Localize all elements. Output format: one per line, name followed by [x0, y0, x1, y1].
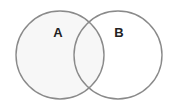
label-a: A: [53, 25, 63, 40]
venn-diagram: A B: [0, 0, 172, 107]
label-b: B: [114, 25, 123, 40]
